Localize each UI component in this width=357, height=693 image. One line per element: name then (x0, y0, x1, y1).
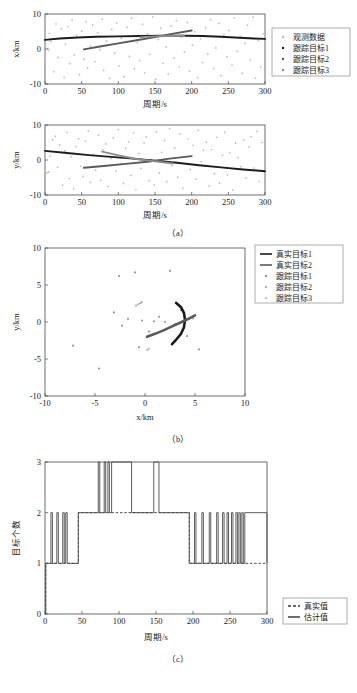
data-point (73, 54, 75, 56)
panel-a-svg: 050100150200250300-10010 周期/s x/km 观测数据跟… (0, 0, 357, 240)
data-point (48, 49, 50, 51)
xtick-label: 150 (150, 616, 163, 626)
data-point (148, 348, 150, 350)
data-point (98, 134, 100, 136)
data-point (141, 301, 143, 303)
legend-label: 跟踪目标3 (293, 65, 329, 75)
legend-swatch-dot (265, 286, 267, 288)
data-point (250, 136, 252, 138)
legend-label: 跟踪目标1 (293, 43, 329, 53)
data-point (229, 152, 231, 154)
data-point (127, 318, 129, 320)
data-point (224, 132, 226, 134)
ytick-label: 3 (37, 457, 41, 467)
legend-label: 估计值 (304, 612, 328, 622)
ytick-label: -10 (30, 190, 41, 200)
figure-container: 050100150200250300-10010 周期/s x/km 观测数据跟… (0, 0, 357, 693)
data-point (226, 56, 228, 58)
data-point (233, 17, 235, 19)
panel-c-svg: 0501001502002503000123 周期/s 目标个数 真实值估计值 … (0, 450, 357, 693)
panel-b: -10-50510-10-50510 x/km y/km 真实目标1真实目标2跟… (0, 240, 357, 450)
data-point (213, 68, 215, 70)
data-point (135, 189, 137, 191)
data-point (90, 45, 92, 47)
legend-label: 跟踪目标2 (276, 282, 312, 292)
data-point (125, 148, 127, 150)
xtick-label: 200 (185, 86, 198, 96)
data-point (186, 335, 188, 337)
xtick-label: 300 (259, 86, 272, 96)
data-point (105, 143, 107, 145)
data-point (240, 166, 242, 168)
data-point (244, 43, 246, 45)
data-point (90, 182, 92, 184)
data-point (139, 60, 141, 62)
data-point (211, 149, 213, 151)
data-point (148, 180, 150, 182)
xaxis-title-a-bottom: 周期/s (143, 210, 167, 220)
data-point (137, 303, 139, 305)
data-point (116, 22, 118, 24)
data-point (98, 368, 100, 370)
data-point (223, 34, 225, 36)
xaxis-title-c: 周期/s (144, 632, 168, 642)
data-point (253, 167, 255, 169)
data-point (57, 57, 59, 59)
xtick-label: 50 (77, 86, 86, 96)
data-point (165, 46, 167, 48)
data-point (118, 65, 120, 67)
data-point (241, 72, 243, 74)
ytick-label: 0 (37, 609, 41, 619)
data-point (57, 167, 59, 169)
data-point (197, 77, 199, 79)
data-point (247, 24, 249, 26)
data-point (205, 141, 207, 143)
ytick-label: 0 (37, 317, 41, 327)
data-point (82, 176, 84, 178)
legend-c: 真实值估计值 (283, 598, 347, 624)
data-point (102, 149, 104, 151)
data-point (162, 63, 164, 65)
xtick-label: 100 (112, 197, 125, 207)
data-point (92, 24, 94, 26)
data-point (153, 184, 155, 186)
data-point (110, 158, 112, 160)
data-point (106, 40, 108, 42)
data-point (49, 32, 51, 34)
data-point (243, 139, 245, 141)
data-point (248, 146, 250, 148)
data-point (164, 321, 166, 323)
data-point (227, 174, 229, 176)
data-point (173, 57, 175, 59)
data-point (107, 186, 109, 188)
data-point (160, 28, 162, 30)
caption-a: （a） (167, 228, 189, 238)
data-point (51, 139, 53, 141)
data-point (117, 129, 119, 131)
data-point (83, 58, 85, 60)
xtick-label: 100 (112, 86, 125, 96)
data-point (145, 136, 147, 138)
data-point (155, 79, 157, 81)
yaxis-title-a-top: x/km (11, 40, 21, 58)
data-point (123, 76, 125, 78)
xtick-label: 300 (259, 197, 272, 207)
panel-c: 0501001502002503000123 周期/s 目标个数 真实值估计值 … (0, 450, 357, 693)
data-point (174, 147, 176, 149)
data-point (177, 176, 179, 178)
ytick-label: 10 (33, 120, 42, 130)
data-point (138, 153, 140, 155)
data-point (194, 31, 196, 33)
data-point (80, 165, 82, 167)
data-point (131, 17, 133, 19)
data-point (261, 142, 263, 144)
ytick-label: -5 (34, 354, 41, 364)
legend-label: 跟踪目标2 (293, 54, 329, 64)
data-point (76, 35, 78, 37)
data-point (69, 63, 71, 65)
legend-label: 观测数据 (293, 32, 325, 42)
subplot-a-bottom: 050100150200250300-10010 周期/s y/km (11, 120, 271, 220)
data-point (232, 189, 234, 191)
legend-b: 真实目标1真实目标2跟踪目标1跟踪目标2跟踪目标3 (255, 245, 343, 303)
data-point (200, 38, 202, 40)
